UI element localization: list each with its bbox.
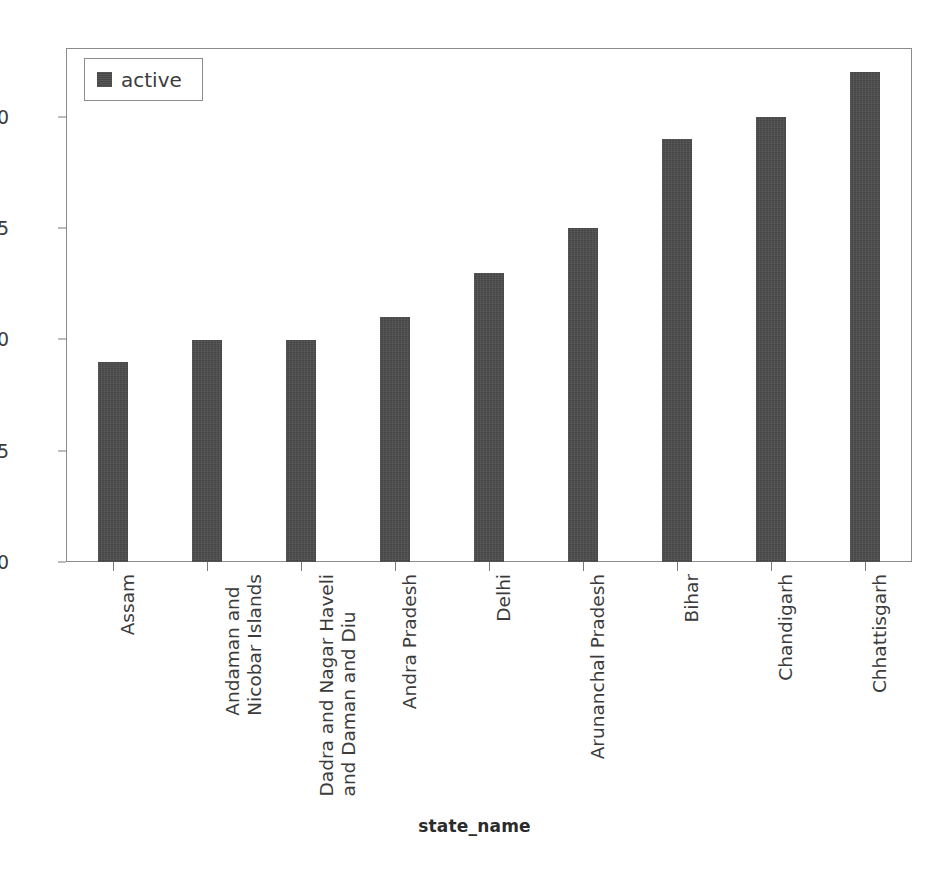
x-tick-mark (489, 562, 490, 571)
bar (662, 139, 692, 562)
x-tick-label-line: Arunanchal Pradesh (587, 574, 608, 759)
legend-label-active: active (121, 70, 182, 90)
x-axis-title: state_name (0, 816, 949, 836)
bar-chart: 05101520 AssamAndaman andNicobar Islands… (0, 0, 949, 877)
y-tick-label: 20 (0, 107, 9, 126)
x-tick-label-line: Nicobar Islands (244, 574, 266, 716)
x-tick-label-line: and Daman and Diu (338, 574, 360, 796)
x-tick-mark (583, 562, 584, 571)
y-axis: 05101520 (0, 0, 66, 877)
x-tick-label: Chhattisgarh (869, 574, 891, 693)
x-tick-label-line: Dadra and Nagar Haveli (316, 574, 337, 796)
x-tick-label: Arunanchal Pradesh (587, 574, 609, 759)
x-tick-label: Andaman andNicobar Islands (222, 574, 265, 716)
bar (756, 117, 786, 562)
x-tick-label: Dadra and Nagar Haveliand Daman and Diu (316, 574, 359, 796)
x-tick-mark (207, 562, 208, 571)
x-tick-label-line: Andaman and (222, 586, 243, 715)
y-tick-mark (58, 116, 66, 117)
legend-swatch-active (97, 72, 112, 87)
bar (380, 317, 410, 562)
bar (474, 273, 504, 562)
y-tick-label: 15 (0, 219, 9, 238)
bar (192, 340, 222, 563)
y-tick-mark (58, 450, 66, 451)
x-tick-label-line: Assam (117, 574, 138, 635)
y-tick-mark (58, 228, 66, 229)
y-tick-mark (58, 562, 66, 563)
x-tick-mark (771, 562, 772, 571)
x-tick-label-line: Bihar (681, 574, 702, 623)
x-tick-label: Delhi (493, 574, 515, 622)
y-tick-label: 5 (0, 441, 9, 460)
x-axis-tick-labels: AssamAndaman andNicobar IslandsDadra and… (66, 574, 912, 804)
x-tick-label-line: Andra Pradesh (399, 574, 420, 709)
x-tick-mark (865, 562, 866, 571)
x-tick-label: Bihar (681, 574, 703, 623)
x-tick-label: Assam (117, 574, 139, 635)
x-tick-label-line: Chandigarh (775, 574, 796, 681)
y-tick-label: 10 (0, 330, 9, 349)
x-tick-label-line: Chhattisgarh (869, 574, 890, 693)
x-tick-mark (677, 562, 678, 571)
x-tick-label-line: Delhi (493, 574, 514, 622)
x-tick-label: Andra Pradesh (399, 574, 421, 709)
x-tick-mark (113, 562, 114, 571)
bar (286, 340, 316, 563)
bar (568, 228, 598, 562)
bar (850, 72, 880, 562)
x-tick-mark (395, 562, 396, 571)
y-tick-mark (58, 339, 66, 340)
bar (98, 362, 128, 562)
x-tick-label: Chandigarh (775, 574, 797, 681)
legend: active (84, 58, 203, 101)
x-axis-ticks (66, 562, 912, 574)
bars-container (66, 48, 912, 562)
y-tick-label: 0 (0, 553, 9, 572)
x-tick-mark (301, 562, 302, 571)
